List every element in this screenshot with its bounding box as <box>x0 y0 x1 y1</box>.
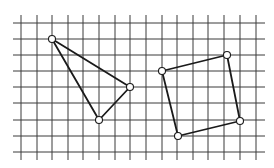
vertex-point <box>96 117 103 124</box>
quadrilateral <box>159 52 244 140</box>
vertex-point <box>49 36 56 43</box>
vertex-point <box>175 133 182 140</box>
triangle <box>49 36 134 124</box>
quadrilateral-outline <box>162 55 240 136</box>
vertex-point <box>224 52 231 59</box>
vertex-point <box>127 84 134 91</box>
triangle-outline <box>52 39 130 120</box>
vertex-point <box>159 68 166 75</box>
vertex-point <box>237 118 244 125</box>
grid-diagram <box>0 0 274 168</box>
